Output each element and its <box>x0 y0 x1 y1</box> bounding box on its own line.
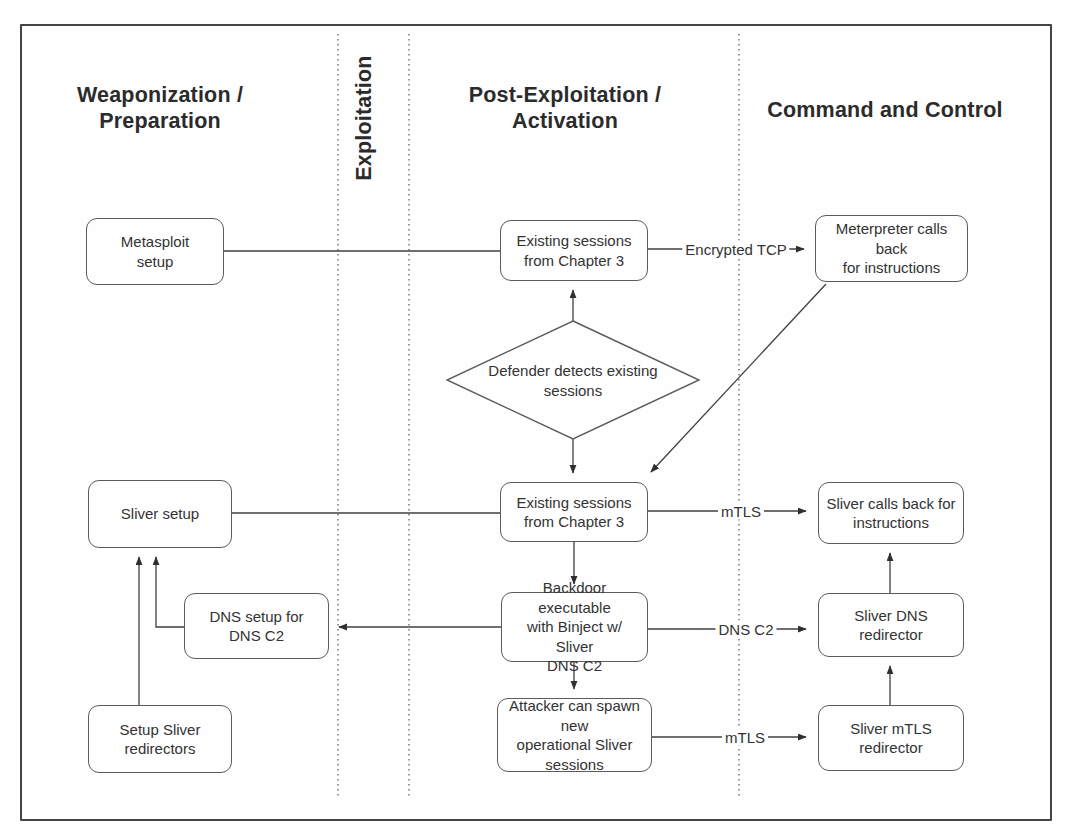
node-existing-sessions-2: Existing sessions from Chapter 3 <box>500 482 648 542</box>
phase-header-weaponization: Weaponization / Preparation <box>40 82 280 134</box>
node-attacker-spawn: Attacker can spawn new operational Slive… <box>497 698 652 772</box>
node-backdoor-executable: Backdoor executable with Binject w/ Sliv… <box>501 592 648 662</box>
diagram-canvas: Weaponization / Preparation Exploitation… <box>0 0 1071 834</box>
node-setup-sliver-redirectors: Setup Sliver redirectors <box>88 705 232 773</box>
node-metasploit-setup: Metasploit setup <box>86 218 224 285</box>
node-meterpreter-callback: Meterpreter calls back for instructions <box>815 215 968 282</box>
edge-label-encrypted-tcp: Encrypted TCP <box>682 241 789 258</box>
edge-dnssetup-to-sliversetup <box>156 557 184 627</box>
node-defender-detects-label: Defender detects existing sessions <box>458 361 688 400</box>
phase-header-command-and-control: Command and Control <box>765 97 1005 123</box>
node-sliver-mtls-redirector: Sliver mTLS redirector <box>818 705 964 771</box>
edge-label-mtls-bottom: mTLS <box>722 729 768 746</box>
node-sliver-setup: Sliver setup <box>88 480 232 548</box>
phase-header-exploitation: Exploitation <box>352 55 377 180</box>
node-sliver-callback: Sliver calls back for instructions <box>818 482 964 544</box>
edge-label-dns-c2: DNS C2 <box>715 621 776 638</box>
phase-header-post-exploitation: Post-Exploitation / Activation <box>445 82 685 134</box>
node-sliver-dns-redirector: Sliver DNS redirector <box>818 593 964 657</box>
node-existing-sessions-1: Existing sessions from Chapter 3 <box>500 220 648 281</box>
edge-label-mtls-top: mTLS <box>718 503 764 520</box>
node-dns-setup: DNS setup for DNS C2 <box>184 593 329 659</box>
